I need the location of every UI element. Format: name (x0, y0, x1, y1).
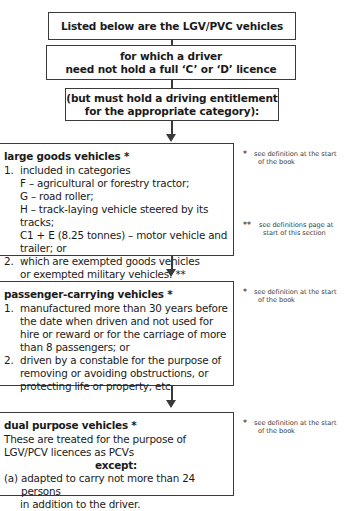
footnote-pcv-single-line-2: of the book (254, 296, 347, 304)
asterisk-icon: * (243, 288, 247, 296)
pcv-item-2-number: 2. (4, 354, 14, 367)
lgv-category-c1e-line-2: trailer; or (4, 242, 228, 255)
footnote-lgv-single-line-2: of the book (254, 158, 347, 166)
node-entitlement-line-1: (but must hold a driving entitlement (66, 92, 278, 105)
footnote-pcv-single-star: * see definition at the start of the boo… (243, 288, 347, 305)
dual-line-2: LGV/PCV licences as PCVs (4, 446, 228, 459)
pcv-item-2: 2. driven by a constable for the purpose… (4, 354, 228, 367)
pcv-item-1: 1. manufactured more than 30 years befor… (4, 302, 228, 315)
pcv-item-2-line-1: driven by a constable for the purpose of (20, 354, 221, 366)
lgv-item-2-line-1: which are exempted goods vehicles (20, 255, 200, 267)
lgv-heading: large goods vehicles * (4, 150, 228, 163)
lgv-item-1: 1. included in categories (4, 164, 228, 177)
pcv-item-2-line-3: protecting life or property, etc. (4, 380, 228, 393)
dual-line-1: These are treated for the purpose of (4, 433, 228, 446)
footnote-lgv-double-line-1: see definitions page at (259, 221, 333, 229)
pcv-item-2-line-2: removing or avoiding obstructions, or (4, 367, 228, 380)
dual-item-a-line-1: adapted to carry not more than 24 person… (21, 472, 195, 497)
double-asterisk-icon: ** (243, 221, 251, 229)
footnote-pcv-single-line-1: see definition at the start (254, 288, 336, 296)
pcv-item-1-line-1: manufactured more than 30 years before (20, 302, 228, 314)
connector-lgv-to-pcv (171, 256, 173, 270)
connector-entitlement-to-lgv (171, 121, 173, 135)
dual-except-label: except: (4, 459, 228, 472)
dual-item-a-line-2: in addition to the driver. (4, 498, 228, 511)
lgv-item-2-number: 2. (4, 255, 14, 268)
node-driver-line-2: need not hold a full ‘C’ or ‘D’ licence (66, 63, 277, 76)
dual-item-a-marker: (a) (4, 472, 18, 485)
node-large-goods-vehicles: large goods vehicles * 1. included in ca… (0, 143, 234, 256)
asterisk-icon: * (243, 150, 247, 158)
node-driver: for which a driver need not hold a full … (46, 45, 296, 80)
pcv-item-1-line-2: the date when driven and not used for (4, 315, 228, 328)
node-passenger-carrying-vehicles: passenger-carrying vehicles * 1. manufac… (0, 281, 234, 386)
node-intro-line-1: Listed below are the LGV/PVC vehicles (61, 20, 283, 33)
pcv-item-1-number: 1. (4, 302, 14, 315)
node-dual-purpose-vehicles: dual purpose vehicles * These are treate… (0, 412, 234, 496)
pcv-heading: passenger-carrying vehicles * (4, 288, 228, 301)
footnote-lgv-single-line-1: see definition at the start (254, 150, 336, 158)
connector-pcv-to-dual (171, 386, 173, 401)
node-driver-line-1: for which a driver (120, 50, 222, 63)
arrowhead-to-dual (166, 400, 176, 408)
lgv-category-g: G – road roller; (4, 190, 228, 203)
dual-heading: dual purpose vehicles * (4, 419, 228, 432)
lgv-item-1-text: included in categories (20, 164, 130, 176)
footnote-dual-single-star: * see definition at the start of the boo… (243, 419, 347, 436)
asterisk-icon: * (243, 419, 247, 427)
connector-driver-to-entitlement (171, 80, 173, 88)
lgv-category-c1e-line-1: C1 + E (8.25 tonnes) – motor vehicle and (4, 229, 228, 242)
lgv-category-h: H – track-laying vehicle steered by its … (4, 203, 228, 229)
node-entitlement: (but must hold a driving entitlement for… (65, 88, 279, 121)
arrowhead-to-lgv (166, 134, 176, 142)
arrowhead-to-pcv (166, 269, 176, 277)
pcv-item-1-line-3: hire or reward or for the carriage of mo… (4, 328, 228, 341)
lgv-item-2: 2. which are exempted goods vehicles (4, 255, 228, 268)
node-entitlement-line-2: for the appropriate category): (85, 105, 259, 118)
lgv-item-2-line-2: or exempted military vehicles: ** (4, 268, 228, 281)
footnote-lgv-double-line-2: start of this section (259, 229, 347, 237)
footnote-lgv-double-star: ** see definitions page at start of this… (243, 221, 347, 238)
dual-item-a: (a) adapted to carry not more than 24 pe… (4, 472, 228, 498)
footnote-dual-single-line-1: see definition at the start (254, 419, 336, 427)
node-intro: Listed below are the LGV/PVC vehicles (48, 12, 296, 40)
footnote-dual-single-line-2: of the book (254, 427, 347, 435)
pcv-item-1-line-4: than 8 passengers; or (4, 341, 228, 354)
lgv-item-1-number: 1. (4, 164, 14, 177)
lgv-category-f: F – agricultural or forestry tractor; (4, 177, 228, 190)
footnote-lgv-single-star: * see definition at the start of the boo… (243, 150, 347, 167)
